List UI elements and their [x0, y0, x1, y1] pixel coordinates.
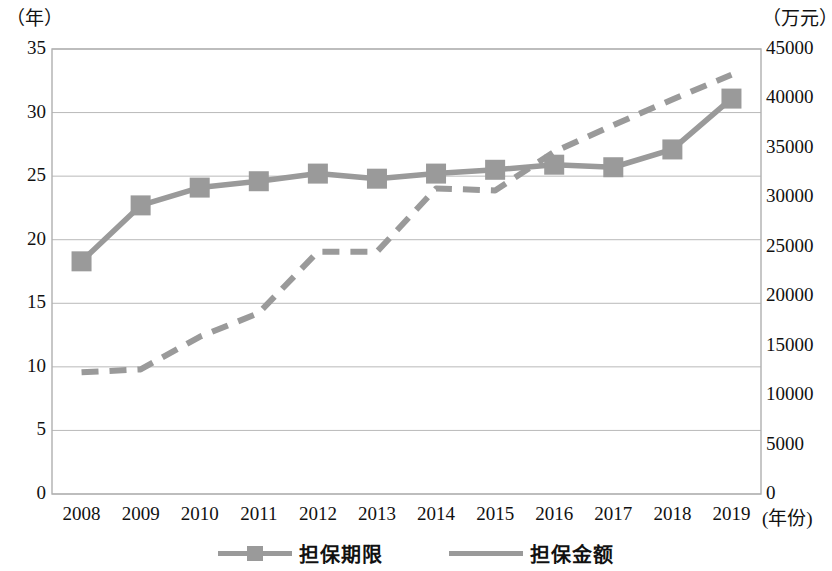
plot-area — [0, 0, 832, 571]
legend-swatch-line-icon — [449, 544, 523, 562]
legend-label-guarantee-term: 担保期限 — [299, 539, 383, 568]
series-line-guarantee-amount — [82, 75, 732, 373]
chart-legend: 担保期限 担保金额 — [0, 535, 832, 571]
legend-item-guarantee-term: 担保期限 — [218, 539, 383, 568]
legend-swatch-square-line-icon — [218, 544, 292, 562]
legend-label-guarantee-amount: 担保金额 — [530, 539, 614, 568]
chart-container: （年） （万元） 35302520151050 4500040000350003… — [0, 0, 832, 571]
legend-item-guarantee-amount: 担保金额 — [449, 539, 614, 568]
plot-frame — [52, 49, 761, 494]
gridlines — [52, 49, 761, 494]
